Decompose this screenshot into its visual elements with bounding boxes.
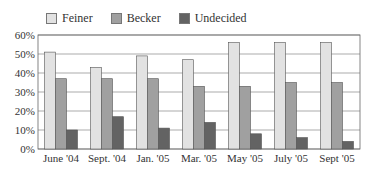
bar-undecided bbox=[113, 117, 124, 149]
bar-feiner bbox=[275, 43, 286, 149]
y-tick-label: 30% bbox=[15, 86, 35, 98]
bar-becker bbox=[286, 83, 297, 150]
x-tick-label: May '05 bbox=[227, 152, 263, 164]
x-tick-label: Sept '05 bbox=[319, 152, 355, 164]
bar-becker bbox=[194, 86, 205, 149]
y-tick-label: 0% bbox=[20, 143, 35, 155]
bar-undecided bbox=[67, 130, 78, 149]
bar-becker bbox=[332, 83, 343, 150]
x-tick-label: Mar. '05 bbox=[181, 152, 218, 164]
bar-feiner bbox=[229, 43, 240, 149]
bar-undecided bbox=[159, 128, 170, 149]
bar-becker bbox=[56, 79, 67, 149]
y-tick-label: 60% bbox=[15, 29, 35, 41]
y-tick-label: 20% bbox=[15, 105, 35, 117]
bar-feiner bbox=[183, 60, 194, 149]
x-tick-label: Sept. '04 bbox=[88, 152, 127, 164]
bar-undecided bbox=[205, 122, 216, 149]
bar-feiner bbox=[137, 56, 148, 149]
bar-undecided bbox=[297, 138, 308, 149]
bar-feiner bbox=[45, 52, 56, 149]
bar-becker bbox=[102, 79, 113, 149]
bar-undecided bbox=[343, 141, 354, 149]
y-tick-label: 40% bbox=[15, 67, 35, 79]
y-tick-label: 10% bbox=[15, 124, 35, 136]
x-tick-label: July '05 bbox=[274, 152, 309, 164]
bar-feiner bbox=[91, 67, 102, 149]
y-tick-label: 50% bbox=[15, 48, 35, 60]
bar-undecided bbox=[251, 134, 262, 149]
bar-becker bbox=[148, 79, 159, 149]
x-tick-label: Jan. '05 bbox=[136, 152, 170, 164]
bar-feiner bbox=[321, 43, 332, 149]
x-tick-label: June '04 bbox=[43, 152, 79, 164]
bar-chart: 0%10%20%30%40%50%60%June '04Sept. '04Jan… bbox=[0, 0, 376, 172]
bar-becker bbox=[240, 86, 251, 149]
